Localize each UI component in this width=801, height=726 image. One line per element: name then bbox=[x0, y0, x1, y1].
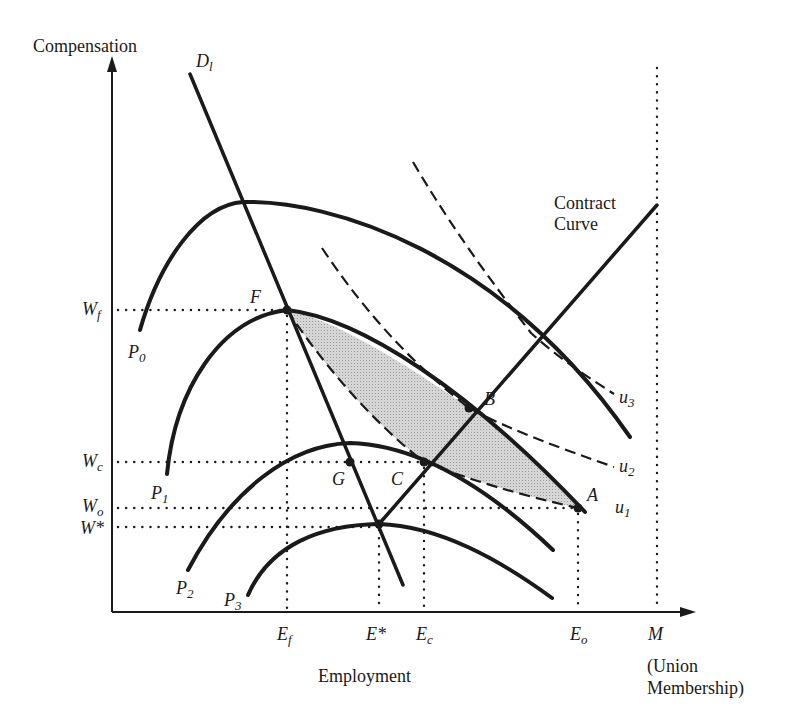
point-c-label: C bbox=[391, 470, 403, 488]
u3-label: u3 bbox=[619, 388, 635, 409]
union-bargaining-diagram bbox=[0, 0, 801, 726]
point-a-label: A bbox=[587, 486, 598, 504]
demand-curve-label: Dl bbox=[196, 52, 213, 73]
p3-label: P3 bbox=[224, 591, 242, 612]
x-axis-arrow-icon bbox=[680, 607, 696, 617]
wage-label-wstar: W* bbox=[80, 519, 104, 540]
isoprofit-curve-p3 bbox=[248, 524, 552, 598]
point-estar-marker bbox=[375, 520, 384, 529]
y-axis-title: Compensation bbox=[33, 37, 137, 55]
point-g-label: G bbox=[332, 470, 345, 488]
x-axis-subtitle-line1: (Union bbox=[647, 657, 698, 675]
contract-curve-label-line2: Curve bbox=[554, 215, 598, 233]
contract-curve-label-line1: Contract bbox=[554, 194, 616, 212]
wage-label-wc: Wc bbox=[82, 452, 103, 473]
p2-label: P2 bbox=[176, 579, 194, 600]
employment-label-m: M bbox=[648, 625, 663, 646]
point-g-marker bbox=[346, 458, 355, 467]
employment-label-eo: Eo bbox=[570, 625, 588, 646]
u1-label: u1 bbox=[615, 498, 631, 519]
point-f-label: F bbox=[250, 288, 261, 306]
y-axis-arrow-icon bbox=[107, 56, 117, 72]
point-a-marker bbox=[574, 504, 583, 513]
point-f-marker bbox=[283, 306, 292, 315]
x-axis-subtitle-line2: Membership) bbox=[647, 679, 744, 697]
p0-label: P0 bbox=[128, 343, 146, 364]
p1-label: P1 bbox=[151, 484, 169, 505]
wage-label-wf: Wf bbox=[82, 300, 101, 321]
u2-label: u2 bbox=[619, 457, 635, 478]
employment-label-ec: Ec bbox=[416, 625, 433, 646]
point-b-label: B bbox=[484, 390, 495, 408]
x-axis-title: Employment bbox=[318, 667, 411, 685]
wage-label-wo: Wo bbox=[82, 497, 104, 518]
point-b-marker bbox=[465, 404, 474, 413]
guide-lines bbox=[118, 68, 657, 608]
employment-label-ef: Ef bbox=[277, 625, 292, 646]
employment-label-estar: E* bbox=[366, 625, 386, 646]
point-c-marker bbox=[420, 458, 429, 467]
